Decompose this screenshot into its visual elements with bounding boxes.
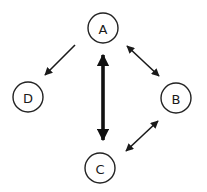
edge-a-b-double-arrow	[127, 46, 159, 76]
node-b: B	[161, 83, 191, 113]
node-c-label: C	[95, 162, 104, 177]
edge-a-to-d-arrow	[45, 45, 75, 75]
edges	[45, 45, 159, 151]
node-a: A	[88, 13, 118, 43]
node-b-label: B	[172, 92, 181, 107]
node-d-label: D	[23, 91, 33, 106]
edge-c-b-double-arrow	[126, 121, 158, 151]
node-a-label: A	[99, 22, 108, 37]
node-d: D	[13, 82, 43, 112]
graph-diagram: A B C D	[0, 0, 207, 192]
node-c: C	[85, 153, 115, 183]
